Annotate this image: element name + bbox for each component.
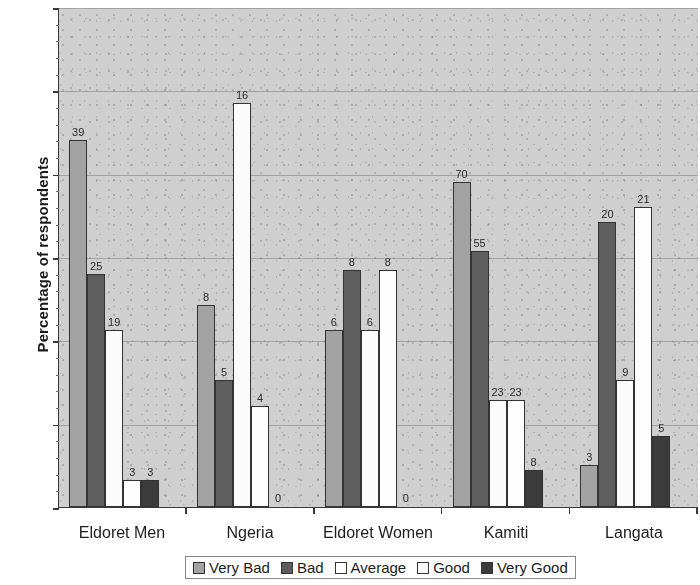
legend-label: Bad	[297, 559, 324, 576]
x-tick-label: Eldoret Women	[314, 524, 442, 542]
bar-group: 3209215	[570, 8, 698, 507]
bar-value-label: 39	[72, 126, 84, 138]
legend-item[interactable]: Very Good	[481, 559, 568, 576]
bar-value-label: 20	[601, 208, 613, 220]
bar: 3	[580, 465, 598, 507]
legend-swatch-icon	[417, 562, 429, 574]
bar: 8	[343, 270, 361, 508]
bar-value-label: 3	[586, 451, 592, 463]
legend-label: Very Bad	[209, 559, 270, 576]
x-axis-tick-labels: Eldoret MenNgeriaEldoret WomenKamitiLang…	[58, 524, 698, 542]
bar: 20	[598, 222, 616, 507]
bar-group-bars: 39251933	[59, 8, 187, 507]
bar-value-label: 21	[637, 193, 649, 205]
bar-value-label: 9	[622, 366, 628, 378]
bar-value-label: 8	[349, 256, 355, 268]
legend-swatch-icon	[481, 562, 493, 574]
chart-legend: Very BadBadAverageGoodVery Good	[185, 556, 576, 579]
bar-value-label: 70	[455, 168, 467, 180]
x-tick-mark	[185, 507, 187, 514]
bar: 21	[634, 207, 652, 507]
bar: 5	[652, 436, 670, 507]
bar-value-label: 0	[403, 492, 409, 504]
bar: 5	[215, 380, 233, 507]
bar-value-label: 5	[221, 366, 227, 378]
bar-value-label: 8	[385, 256, 391, 268]
legend-item[interactable]: Very Bad	[193, 559, 270, 576]
bar-value-label: 23	[509, 386, 521, 398]
bar-value-label: 6	[367, 316, 373, 328]
legend-swatch-icon	[335, 562, 347, 574]
bar-value-label: 3	[129, 466, 135, 478]
bar: 6	[325, 330, 343, 508]
bar-value-label: 25	[90, 260, 102, 272]
legend-item[interactable]: Good	[417, 559, 470, 576]
x-tick-mark	[569, 507, 571, 514]
bar-value-label: 5	[658, 422, 664, 434]
bar: 4	[251, 406, 269, 507]
x-tick-mark	[441, 507, 443, 514]
bar: 9	[616, 380, 634, 508]
legend-label: Average	[351, 559, 407, 576]
legend-swatch-icon	[193, 562, 205, 574]
bar-group: 39251933	[59, 8, 187, 507]
x-tick-mark	[696, 507, 698, 514]
bar-group: 851640	[187, 8, 315, 507]
x-tick-label: Ngeria	[186, 524, 314, 542]
bar-groups: 39251933851640686807055232383209215	[59, 8, 698, 507]
bar-value-label: 55	[473, 237, 485, 249]
bar-group: 68680	[315, 8, 443, 507]
x-tick-label: Eldoret Men	[58, 524, 186, 542]
bar-group: 705523238	[442, 8, 570, 507]
plot-area: 39251933851640686807055232383209215	[58, 8, 698, 508]
bar-value-label: 3	[147, 466, 153, 478]
bar: 70	[453, 182, 471, 507]
x-tick-mark	[313, 507, 315, 514]
bar: 3	[123, 480, 141, 508]
x-tick-label: Langata	[570, 524, 698, 542]
bar-group-bars: 705523238	[442, 8, 570, 507]
bar-group-bars: 3209215	[570, 8, 698, 507]
legend-label: Good	[433, 559, 470, 576]
bar-chart-figure: Percentage of respondents 0102030405060 …	[0, 0, 700, 585]
bar: 39	[69, 140, 87, 507]
bar: 3	[141, 480, 159, 508]
bar: 6	[361, 330, 379, 508]
bar: 8	[525, 470, 543, 507]
legend-label: Very Good	[497, 559, 568, 576]
bar: 8	[379, 270, 397, 508]
bar: 19	[105, 330, 123, 508]
legend-item[interactable]: Bad	[281, 559, 324, 576]
bar: 8	[197, 305, 215, 507]
bar-value-label: 4	[257, 392, 263, 404]
bar: 55	[471, 251, 489, 507]
bar: 25	[87, 274, 105, 507]
legend-swatch-icon	[281, 562, 293, 574]
bar-value-label: 19	[108, 316, 120, 328]
bar-value-label: 23	[491, 386, 503, 398]
bar-value-label: 8	[203, 291, 209, 303]
bar-value-label: 16	[236, 89, 248, 101]
bar: 16	[233, 103, 251, 507]
bar-group-bars: 851640	[187, 8, 315, 507]
bar: 23	[489, 400, 507, 507]
bar-value-label: 6	[331, 316, 337, 328]
bar-value-label: 8	[531, 456, 537, 468]
bar: 23	[507, 400, 525, 507]
x-tick-label: Kamiti	[442, 524, 570, 542]
legend-item[interactable]: Average	[335, 559, 407, 576]
y-tick-mark	[53, 508, 59, 510]
bar-value-label: 0	[275, 492, 281, 504]
bar-group-bars: 68680	[315, 8, 443, 507]
y-axis-title: Percentage of respondents	[34, 125, 51, 385]
